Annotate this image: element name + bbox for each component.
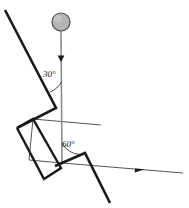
- ray-arrowhead: [135, 169, 145, 173]
- thick-v-wedge: [55, 153, 110, 203]
- angle-label-60: 60°: [62, 140, 75, 149]
- thick-rhombus-block: [17, 119, 61, 179]
- figure-svg: [0, 0, 189, 208]
- downward-arrowhead: [58, 56, 65, 63]
- angle-label-30: 30°: [43, 70, 56, 79]
- ball: [52, 13, 70, 31]
- figure-canvas: 30° 60°: [0, 0, 189, 208]
- thin-ray-right-group: [62, 163, 183, 173]
- ball-highlight: [54, 15, 62, 23]
- thin-ray-right: [62, 163, 183, 173]
- angle-arc-30: [50, 82, 62, 92]
- parallelogram-edge-top: [33, 119, 101, 125]
